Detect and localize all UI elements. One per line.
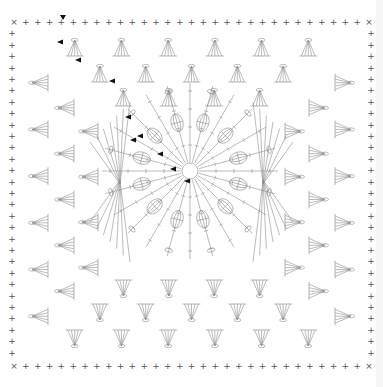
sc-stitch-icon: + xyxy=(367,120,375,130)
sc-stitch-icon: + xyxy=(223,17,231,27)
corner-mark-icon: × xyxy=(365,361,373,371)
sc-stitch-icon: + xyxy=(282,17,290,27)
puff-cluster-icon xyxy=(195,209,211,229)
sc-stitch-icon: + xyxy=(188,17,196,27)
sc-stitch-icon: + xyxy=(200,17,208,27)
side-fan-rows xyxy=(29,38,355,347)
sc-stitch-icon: + xyxy=(330,17,338,27)
sc-stitch-icon: + xyxy=(129,361,137,371)
sc-stitch-icon: + xyxy=(367,199,375,209)
sc-stitch-icon: + xyxy=(8,256,16,266)
sc-stitch-icon: + xyxy=(34,17,42,27)
sc-stitch-icon: + xyxy=(8,40,16,50)
sc-stitch-icon: + xyxy=(46,361,54,371)
start-marker-icon xyxy=(75,58,81,63)
puff-cluster-icon xyxy=(169,209,185,229)
sc-stitch-icon: + xyxy=(8,165,16,175)
sc-stitch-icon: + xyxy=(367,131,375,141)
sc-stitch-icon: + xyxy=(188,361,196,371)
sc-stitch-icon: + xyxy=(367,28,375,38)
sc-stitch-icon: + xyxy=(8,336,16,346)
sc-stitch-icon: + xyxy=(259,361,267,371)
sc-stitch-icon: + xyxy=(200,361,208,371)
sc-stitch-icon: + xyxy=(306,17,314,27)
sc-stitch-icon: + xyxy=(8,63,16,73)
sc-stitch-icon: + xyxy=(8,199,16,209)
sc-stitch-icon: + xyxy=(22,17,30,27)
sc-stitch-icon: + xyxy=(367,142,375,152)
sc-stitch-icon: + xyxy=(259,17,267,27)
sc-stitch-icon: + xyxy=(367,313,375,323)
sc-stitch-icon: + xyxy=(367,97,375,107)
sc-stitch-icon: + xyxy=(93,361,101,371)
sc-stitch-icon: + xyxy=(176,361,184,371)
sc-stitch-icon: + xyxy=(22,361,30,371)
sc-stitch-icon: + xyxy=(46,17,54,27)
corner-mark-icon: × xyxy=(10,361,18,371)
sc-stitch-icon: + xyxy=(271,17,279,27)
sc-stitch-icon: + xyxy=(367,234,375,244)
sc-stitch-icon: + xyxy=(8,348,16,358)
puff-cluster-icon xyxy=(131,176,151,192)
sc-stitch-icon: + xyxy=(235,361,243,371)
sc-stitch-icon: + xyxy=(367,302,375,312)
center-medallion xyxy=(102,83,278,259)
sc-stitch-icon: + xyxy=(140,17,148,27)
sc-stitch-icon: + xyxy=(8,85,16,95)
sc-stitch-icon: + xyxy=(367,63,375,73)
sc-stitch-icon: + xyxy=(8,245,16,255)
sc-stitch-icon: + xyxy=(353,361,361,371)
sc-stitch-icon: + xyxy=(282,361,290,371)
sc-stitch-icon: + xyxy=(367,211,375,221)
sc-stitch-icon: + xyxy=(105,17,113,27)
sc-stitch-icon: + xyxy=(164,361,172,371)
crochet-chart: ++++++++++++++++++++++++++++++++++++++++… xyxy=(0,0,383,387)
sc-stitch-icon: + xyxy=(8,51,16,61)
sc-stitch-icon: + xyxy=(367,336,375,346)
start-marker-icon xyxy=(137,134,143,139)
sc-stitch-icon: + xyxy=(367,268,375,278)
sc-stitch-icon: + xyxy=(367,165,375,175)
sc-stitch-icon: + xyxy=(367,245,375,255)
sc-stitch-icon: + xyxy=(8,28,16,38)
sc-stitch-icon: + xyxy=(69,361,77,371)
sc-stitch-icon: + xyxy=(8,188,16,198)
puff-cluster-icon xyxy=(131,150,151,166)
sc-stitch-icon: + xyxy=(8,302,16,312)
center-ring-icon xyxy=(182,163,198,179)
sc-stitch-icon: + xyxy=(342,17,350,27)
sc-stitch-icon: + xyxy=(367,108,375,118)
sc-stitch-icon: + xyxy=(152,361,160,371)
sc-stitch-icon: + xyxy=(8,97,16,107)
sc-stitch-icon: + xyxy=(105,361,113,371)
sc-stitch-icon: + xyxy=(330,361,338,371)
start-marker-icon xyxy=(109,79,115,84)
sc-stitch-icon: + xyxy=(367,348,375,358)
sc-stitch-icon: + xyxy=(117,361,125,371)
sc-stitch-icon: + xyxy=(8,120,16,130)
corner-mark-icon: × xyxy=(10,17,18,27)
sc-stitch-icon: + xyxy=(176,17,184,27)
sc-stitch-icon: + xyxy=(8,313,16,323)
sc-stitch-icon: + xyxy=(8,268,16,278)
sc-stitch-icon: + xyxy=(294,361,302,371)
sc-stitch-icon: + xyxy=(81,361,89,371)
sc-stitch-icon: + xyxy=(211,361,219,371)
sc-stitch-icon: + xyxy=(271,361,279,371)
puff-cluster-icon xyxy=(169,112,185,132)
sc-stitch-icon: + xyxy=(58,17,66,27)
sc-stitch-icon: + xyxy=(8,222,16,232)
sc-stitch-icon: + xyxy=(34,361,42,371)
sc-stitch-icon: + xyxy=(367,222,375,232)
sc-stitch-icon: + xyxy=(152,17,160,27)
sc-stitch-icon: + xyxy=(247,361,255,371)
sc-stitch-icon: + xyxy=(8,108,16,118)
sc-stitch-icon: + xyxy=(318,361,326,371)
sc-stitch-icon: + xyxy=(306,361,314,371)
sc-stitch-icon: + xyxy=(81,17,89,27)
sc-stitch-icon: + xyxy=(8,279,16,289)
sc-stitch-icon: + xyxy=(223,361,231,371)
sc-stitch-icon: + xyxy=(129,17,137,27)
sc-stitch-icon: + xyxy=(8,74,16,84)
sc-stitch-icon: + xyxy=(367,85,375,95)
